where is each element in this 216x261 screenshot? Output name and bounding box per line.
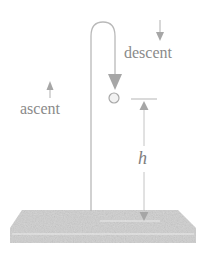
trajectory-path [91,22,115,211]
ascent-label: ascent [20,101,60,117]
trajectory-figure [0,0,216,261]
descent-arrow-icon [156,20,164,41]
ascent-arrow-icon [47,81,54,98]
ball [109,93,119,103]
height-label: h [138,149,147,167]
projectile-diagram: descent ascent h [0,0,216,261]
descent-label: descent [124,45,172,61]
descent-path-arrow-icon [108,74,122,90]
ground-slab [10,210,196,243]
